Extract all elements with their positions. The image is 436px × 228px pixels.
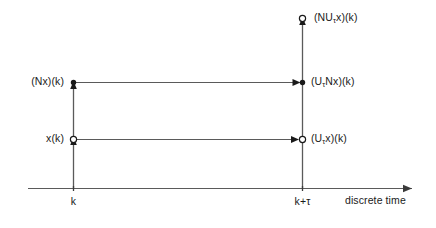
node-label-u-tau-nx: (UτNx)(k) <box>311 76 355 87</box>
axis-tick-label-k-plus-tau-text: k+τ <box>295 195 311 207</box>
marker-node-x-open-circle <box>70 136 76 142</box>
axis-tick-label-k-plus-tau: k+τ <box>282 196 323 207</box>
node-label-u-tau-x-prefix: (U <box>311 132 322 144</box>
marker-node-u-tau-nx-filled-dot <box>300 80 305 85</box>
marker-node-u-tau-x-open-circle <box>299 136 305 142</box>
node-label-u-tau-x-suffix: x)(k) <box>325 132 347 144</box>
axis-title-discrete-time-text: discrete time <box>345 194 406 206</box>
axis-tick-label-k-text: k <box>71 195 76 207</box>
figure-canvas: (Nx)(k) x(k) (NUτx)(k) (UτNx)(k) (Uτx)(k… <box>0 0 436 228</box>
node-label-x: x(k) <box>0 133 64 144</box>
node-label-u-tau-nx-prefix: (U <box>311 75 322 87</box>
node-label-u-tau-x-subscript: τ <box>322 137 325 146</box>
node-label-nu-tau-x: (NUτx)(k) <box>314 12 358 23</box>
marker-node-nu-tau-x-open-circle <box>299 15 305 21</box>
axis-title-discrete-time: discrete time <box>345 195 406 206</box>
node-label-u-tau-nx-subscript: τ <box>322 80 325 89</box>
marker-node-nx-filled-dot <box>71 80 76 85</box>
node-label-x-text: x(k) <box>46 132 64 144</box>
node-label-nu-tau-x-prefix: (NU <box>314 11 333 23</box>
node-label-nx: (Nx)(k) <box>0 76 64 87</box>
node-label-u-tau-x: (Uτx)(k) <box>311 133 347 144</box>
node-label-nx-text: (Nx)(k) <box>31 75 64 87</box>
discrete-time-axis-arrowhead <box>403 185 412 192</box>
arrowhead-x-to-u-tau-x <box>291 136 299 143</box>
node-label-nu-tau-x-suffix: x)(k) <box>336 11 358 23</box>
node-label-nu-tau-x-subscript: τ <box>333 16 336 25</box>
axis-tick-label-k: k <box>59 196 88 207</box>
arrowhead-nx-to-u-tau-nx <box>293 79 301 86</box>
node-label-u-tau-nx-suffix: Nx)(k) <box>325 75 354 87</box>
